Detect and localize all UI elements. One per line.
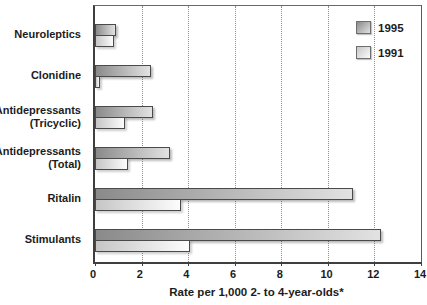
legend-label-1995: 1995 <box>378 22 404 34</box>
category-axis-labels: NeurolepticsClonidineAntidepressants(Tri… <box>0 5 87 261</box>
category-label-line: (Tricyclic) <box>30 117 81 130</box>
category-label-stimulants: Stimulants <box>0 219 87 260</box>
category-label-clonidine: Clonidine <box>0 55 87 96</box>
legend: 1995 1991 <box>356 21 404 59</box>
tick-8 <box>281 262 282 266</box>
legend-label-1991: 1991 <box>378 47 404 59</box>
chart: NeurolepticsClonidineAntidepressants(Tri… <box>0 0 427 305</box>
category-label-line: (Total) <box>48 158 81 171</box>
tick-6 <box>235 262 236 266</box>
category-label-antidepressants-tricyclic: Antidepressants(Tricyclic) <box>0 96 87 137</box>
legend-item-1995: 1995 <box>356 21 404 34</box>
bar-1991-neuroleptics <box>95 35 114 47</box>
category-label-antidepressants-total: Antidepressants(Total) <box>0 137 87 178</box>
legend-swatch-1991 <box>356 46 371 59</box>
bar-1991-antidepressants-tricyclic <box>95 117 125 129</box>
category-label-line: Neuroleptics <box>14 28 81 41</box>
category-label-line: Stimulants <box>25 233 81 246</box>
x-axis-title: Rate per 1,000 2- to 4-year-olds* <box>93 286 420 298</box>
row-stimulants <box>95 220 421 261</box>
x-axis-tick-labels: 02468101214 <box>93 268 420 282</box>
tick-0 <box>95 262 96 266</box>
tick-12 <box>374 262 375 266</box>
bar-1991-antidepressants-total <box>95 158 128 170</box>
tick-label-4: 4 <box>183 268 189 280</box>
tick-label-6: 6 <box>230 268 236 280</box>
tick-10 <box>328 262 329 266</box>
tick-label-12: 12 <box>367 268 379 280</box>
legend-item-1991: 1991 <box>356 46 404 59</box>
bar-1995-clonidine <box>95 65 151 77</box>
bar-1991-ritalin <box>95 199 181 211</box>
category-label-line: Antidepressants <box>0 104 81 117</box>
category-label-line: Clonidine <box>31 69 81 82</box>
row-antidepressants-tricyclic <box>95 97 421 138</box>
category-label-line: Antidepressants <box>0 145 81 158</box>
row-clonidine <box>95 56 421 97</box>
tick-label-10: 10 <box>320 268 332 280</box>
category-label-line: Ritalin <box>47 192 81 205</box>
tick-2 <box>142 262 143 266</box>
row-ritalin <box>95 179 421 220</box>
tick-label-14: 14 <box>414 268 426 280</box>
row-antidepressants-total <box>95 138 421 179</box>
category-label-neuroleptics: Neuroleptics <box>0 14 87 55</box>
tick-14 <box>421 262 422 266</box>
category-label-ritalin: Ritalin <box>0 178 87 219</box>
bar-1991-clonidine <box>95 76 100 88</box>
bar-1991-stimulants <box>95 240 190 252</box>
tick-label-2: 2 <box>137 268 143 280</box>
legend-swatch-1995 <box>356 21 371 34</box>
tick-4 <box>188 262 189 266</box>
tick-label-8: 8 <box>277 268 283 280</box>
tick-label-0: 0 <box>90 268 96 280</box>
